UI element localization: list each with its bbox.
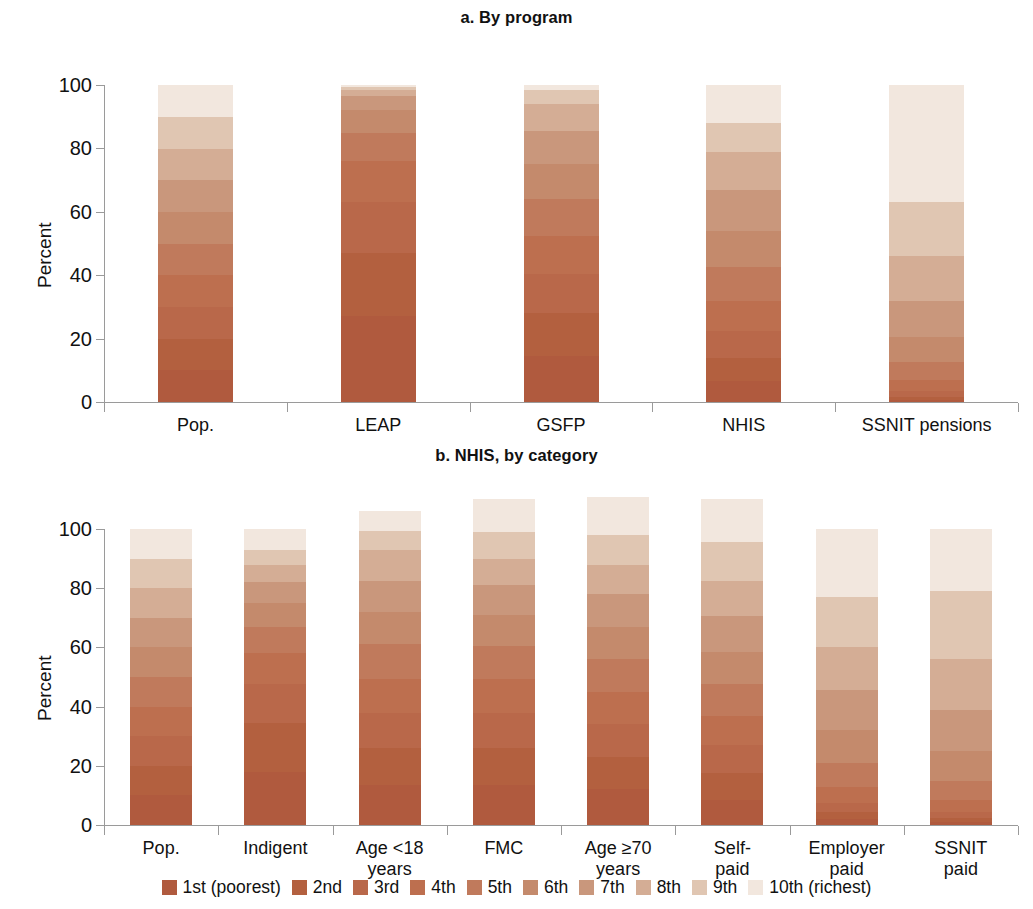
y-axis-tick-mark (96, 402, 104, 403)
x-axis-tick-mark (790, 826, 791, 835)
bar-stack (359, 529, 421, 825)
bar-segment (359, 713, 421, 749)
bar-segment (473, 559, 535, 586)
bar-segment (244, 653, 306, 684)
y-axis-tick-label: 20 (42, 756, 92, 776)
x-axis-category-label: SSNIT pensions (835, 415, 1018, 436)
legend-swatch-icon (162, 880, 177, 895)
legend-swatch-icon (410, 880, 425, 895)
bar-segment (930, 800, 992, 812)
bar-segment (587, 565, 649, 595)
bar-segment (701, 616, 763, 652)
bar-segment (244, 582, 306, 603)
x-axis-category-label: GSFP (470, 415, 653, 436)
x-axis-tick-mark (904, 826, 905, 835)
x-axis-category-label: Age <18 years (333, 838, 447, 880)
x-axis-tick-mark (835, 403, 836, 412)
bar-segment (930, 529, 992, 591)
legend-swatch-icon (292, 880, 307, 895)
legend-item: 3rd (353, 877, 399, 898)
legend-swatch-icon (523, 880, 538, 895)
legend-label: 2nd (313, 877, 342, 898)
y-axis-tick-label: 60 (42, 202, 92, 222)
y-axis-tick-mark (96, 85, 104, 86)
panel-b-title: b. NHIS, by category (0, 440, 1033, 465)
bar-segment (130, 647, 192, 677)
bar-segment (816, 690, 878, 730)
legend-label: 9th (713, 877, 737, 898)
y-axis-tick-label: 40 (42, 697, 92, 717)
bar-segment (341, 161, 416, 202)
legend-swatch-icon (748, 880, 763, 895)
legend-swatch-icon (636, 880, 651, 895)
x-axis-tick-mark (1018, 403, 1019, 412)
bar-segment (701, 581, 763, 617)
bar-segment (473, 615, 535, 646)
bar-segment (158, 307, 233, 339)
bar-stack (889, 85, 964, 402)
x-axis-tick-mark (1018, 826, 1019, 835)
y-axis-tick-mark (96, 647, 104, 648)
y-axis-tick-label: 100 (42, 519, 92, 539)
bar-segment (889, 256, 964, 300)
x-axis-tick-mark (333, 826, 334, 835)
legend-item: 4th (410, 877, 455, 898)
legend-item: 7th (579, 877, 624, 898)
bar-segment (473, 646, 535, 679)
bar-segment (158, 180, 233, 212)
bar-segment (889, 380, 964, 391)
legend-label: 10th (richest) (769, 877, 871, 898)
x-axis-tick-mark (104, 403, 105, 412)
bar-segment (130, 795, 192, 825)
bar-segment (524, 236, 599, 274)
bar-stack (587, 529, 649, 825)
bar-segment (359, 550, 421, 581)
bar-segment (524, 90, 599, 104)
bar-segment (930, 822, 992, 825)
bar-segment (158, 339, 233, 371)
bar-segment (524, 356, 599, 402)
bar-segment (706, 358, 781, 382)
bar-segment (244, 603, 306, 627)
bar-segment (701, 499, 763, 542)
y-axis-tick-label: 0 (42, 815, 92, 835)
legend-label: 3rd (374, 877, 399, 898)
y-axis-line (104, 529, 105, 826)
bar-segment (130, 736, 192, 766)
bar-stack (244, 529, 306, 825)
bar-segment (473, 585, 535, 615)
bar-segment (587, 594, 649, 627)
x-axis-tick-mark (470, 403, 471, 412)
bar-segment (889, 202, 964, 256)
bar-segment (341, 316, 416, 402)
y-axis-tick-mark (96, 707, 104, 708)
chart-panel-by-program: a. By program Percent020406080100Pop.LEA… (0, 0, 1033, 430)
bar-segment (359, 531, 421, 550)
y-axis-tick-label: 40 (42, 265, 92, 285)
legend-swatch-icon (467, 880, 482, 895)
y-axis-tick-label: 20 (42, 329, 92, 349)
y-axis-tick-mark (96, 148, 104, 149)
x-axis-category-label: NHIS (652, 415, 835, 436)
legend-item: 10th (richest) (748, 877, 871, 898)
bar-segment (706, 381, 781, 402)
bar-segment (244, 723, 306, 772)
bar-segment (359, 748, 421, 785)
bar-segment (158, 275, 233, 307)
bar-segment (587, 757, 649, 790)
bar-segment (816, 730, 878, 763)
bar-segment (701, 800, 763, 825)
bar-stack (706, 85, 781, 402)
x-axis-tick-mark (652, 403, 653, 412)
x-axis-category-label: LEAP (287, 415, 470, 436)
bar-segment (524, 164, 599, 199)
x-axis-tick-mark (561, 826, 562, 835)
x-axis-category-label: Employer paid (790, 838, 904, 880)
y-axis-tick-label: 100 (42, 75, 92, 95)
bar-segment (130, 588, 192, 618)
bar-segment (158, 212, 233, 244)
legend-item: 6th (523, 877, 568, 898)
y-axis-tick-mark (96, 529, 104, 530)
legend-item: 1st (poorest) (162, 877, 281, 898)
x-axis-tick-mark (287, 403, 288, 412)
